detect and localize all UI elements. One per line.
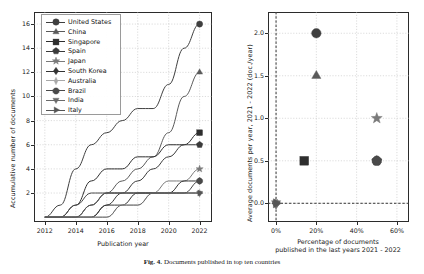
left-y-tickmark bbox=[31, 193, 34, 194]
legend-item-label: Brazil bbox=[68, 87, 86, 95]
thin-diamond-marker bbox=[49, 76, 63, 86]
legend-line bbox=[46, 22, 65, 23]
left-y-tickmark bbox=[31, 24, 34, 25]
legend-line bbox=[46, 41, 65, 42]
right-x-tick-label: 40% bbox=[343, 227, 371, 234]
triangle-right-marker bbox=[49, 105, 63, 115]
figure-container: Accumulative number of documents 2468101… bbox=[0, 0, 424, 274]
left-y-tick-label: 4 bbox=[8, 165, 30, 172]
star-marker bbox=[49, 56, 63, 66]
square-marker bbox=[49, 37, 63, 47]
legend-item-label: India bbox=[68, 96, 84, 104]
left-y-tickmark bbox=[31, 96, 34, 97]
right-y-tickmark bbox=[265, 33, 268, 34]
legend: United StatesChinaSingaporeSpainJapanSou… bbox=[41, 14, 121, 115]
left-chart-panel: Accumulative number of documents 2468101… bbox=[0, 0, 220, 258]
legend-item-label: Japan bbox=[68, 57, 86, 65]
diamond-marker bbox=[49, 66, 63, 76]
legend-item-label: South Korea bbox=[68, 67, 107, 75]
legend-item[interactable]: Italy bbox=[46, 105, 120, 115]
legend-item[interactable]: South Korea bbox=[46, 66, 120, 76]
right-chart-panel: Average documents per year, 2021 - 2022 … bbox=[220, 0, 424, 258]
left-y-tick-label: 6 bbox=[8, 141, 30, 148]
right-x-axis-label-line1: Percentage of documents bbox=[250, 238, 424, 246]
legend-item[interactable]: Brazil bbox=[46, 86, 120, 96]
legend-line bbox=[46, 61, 65, 62]
right-x-tickmark bbox=[276, 222, 277, 225]
left-x-axis-label: Publication year bbox=[34, 240, 212, 248]
figure-caption-text: Documents published in top ten countries bbox=[164, 258, 280, 266]
left-x-tickmark bbox=[76, 222, 77, 225]
right-y-tickmark bbox=[265, 76, 268, 77]
left-x-tickmark bbox=[200, 222, 201, 225]
left-y-tick-label: 14 bbox=[8, 44, 30, 51]
legend-line bbox=[46, 100, 65, 101]
figure-caption: Fig. 4. Documents published in top ten c… bbox=[0, 258, 424, 274]
legend-item[interactable]: Japan bbox=[46, 56, 120, 66]
legend-line bbox=[46, 51, 65, 52]
legend-item[interactable]: United States bbox=[46, 17, 120, 27]
left-x-tickmark bbox=[45, 222, 46, 225]
right-x-tickmark bbox=[357, 222, 358, 225]
octagon-marker bbox=[49, 86, 63, 96]
right-x-axis-label: Percentage of documents published in the… bbox=[250, 238, 424, 254]
left-y-tick-label: 8 bbox=[8, 117, 30, 124]
legend-item[interactable]: Singapore bbox=[46, 37, 120, 47]
right-y-tick-label: 1.0 bbox=[240, 114, 264, 121]
legend-item[interactable]: India bbox=[46, 95, 120, 105]
left-y-tick-label: 10 bbox=[8, 92, 30, 99]
right-x-tick-label: 60% bbox=[383, 227, 411, 234]
right-x-tick-label: 20% bbox=[302, 227, 330, 234]
right-plot-area bbox=[268, 12, 409, 222]
right-x-tickmark bbox=[316, 222, 317, 225]
legend-item-label: China bbox=[68, 28, 86, 36]
left-x-tickmark bbox=[107, 222, 108, 225]
right-y-tick-label: 0.0 bbox=[240, 199, 264, 206]
right-y-tickmark bbox=[265, 161, 268, 162]
left-x-tick-label: 2016 bbox=[93, 227, 121, 234]
triangle-down-marker bbox=[49, 95, 63, 105]
right-y-tickmark bbox=[265, 203, 268, 204]
pentagon-marker bbox=[49, 46, 63, 56]
left-x-tickmark bbox=[169, 222, 170, 225]
left-y-tickmark bbox=[31, 48, 34, 49]
figure-caption-label: Fig. 4. bbox=[144, 258, 162, 266]
legend-line bbox=[46, 80, 65, 81]
legend-line bbox=[46, 90, 65, 91]
legend-line bbox=[46, 71, 65, 72]
legend-item[interactable]: China bbox=[46, 27, 120, 37]
left-y-tick-label: 2 bbox=[8, 189, 30, 196]
legend-item-label: United States bbox=[68, 18, 111, 26]
left-y-tickmark bbox=[31, 169, 34, 170]
right-y-tick-label: 2.0 bbox=[240, 29, 264, 36]
left-y-tickmark bbox=[31, 145, 34, 146]
right-x-tick-label: 0% bbox=[262, 227, 290, 234]
left-x-tick-label: 2014 bbox=[62, 227, 90, 234]
legend-item-label: Italy bbox=[68, 106, 82, 114]
legend-item-label: Spain bbox=[68, 47, 86, 55]
left-x-tick-label: 2012 bbox=[31, 227, 59, 234]
left-y-tick-label: 12 bbox=[8, 68, 30, 75]
right-y-tick-label: 0.5 bbox=[240, 157, 264, 164]
left-y-tickmark bbox=[31, 121, 34, 122]
legend-line bbox=[46, 31, 65, 32]
legend-item-label: Singapore bbox=[68, 38, 100, 46]
right-y-tickmark bbox=[265, 118, 268, 119]
legend-item-label: Australia bbox=[68, 77, 96, 85]
circle-marker bbox=[49, 17, 63, 27]
left-y-tick-label: 16 bbox=[8, 20, 30, 27]
right-y-tick-label: 1.5 bbox=[240, 72, 264, 79]
legend-line bbox=[46, 110, 65, 111]
triangle-up-marker bbox=[49, 27, 63, 37]
left-y-tickmark bbox=[31, 72, 34, 73]
left-x-tickmark bbox=[138, 222, 139, 225]
left-x-tick-label: 2020 bbox=[155, 227, 183, 234]
right-x-tickmark bbox=[397, 222, 398, 225]
legend-item[interactable]: Australia bbox=[46, 76, 120, 86]
legend-item[interactable]: Spain bbox=[46, 46, 120, 56]
right-x-axis-label-line2: published in the last years 2021 - 2022 bbox=[250, 246, 424, 254]
left-x-tick-label: 2018 bbox=[124, 227, 152, 234]
left-x-tick-label: 2022 bbox=[186, 227, 214, 234]
